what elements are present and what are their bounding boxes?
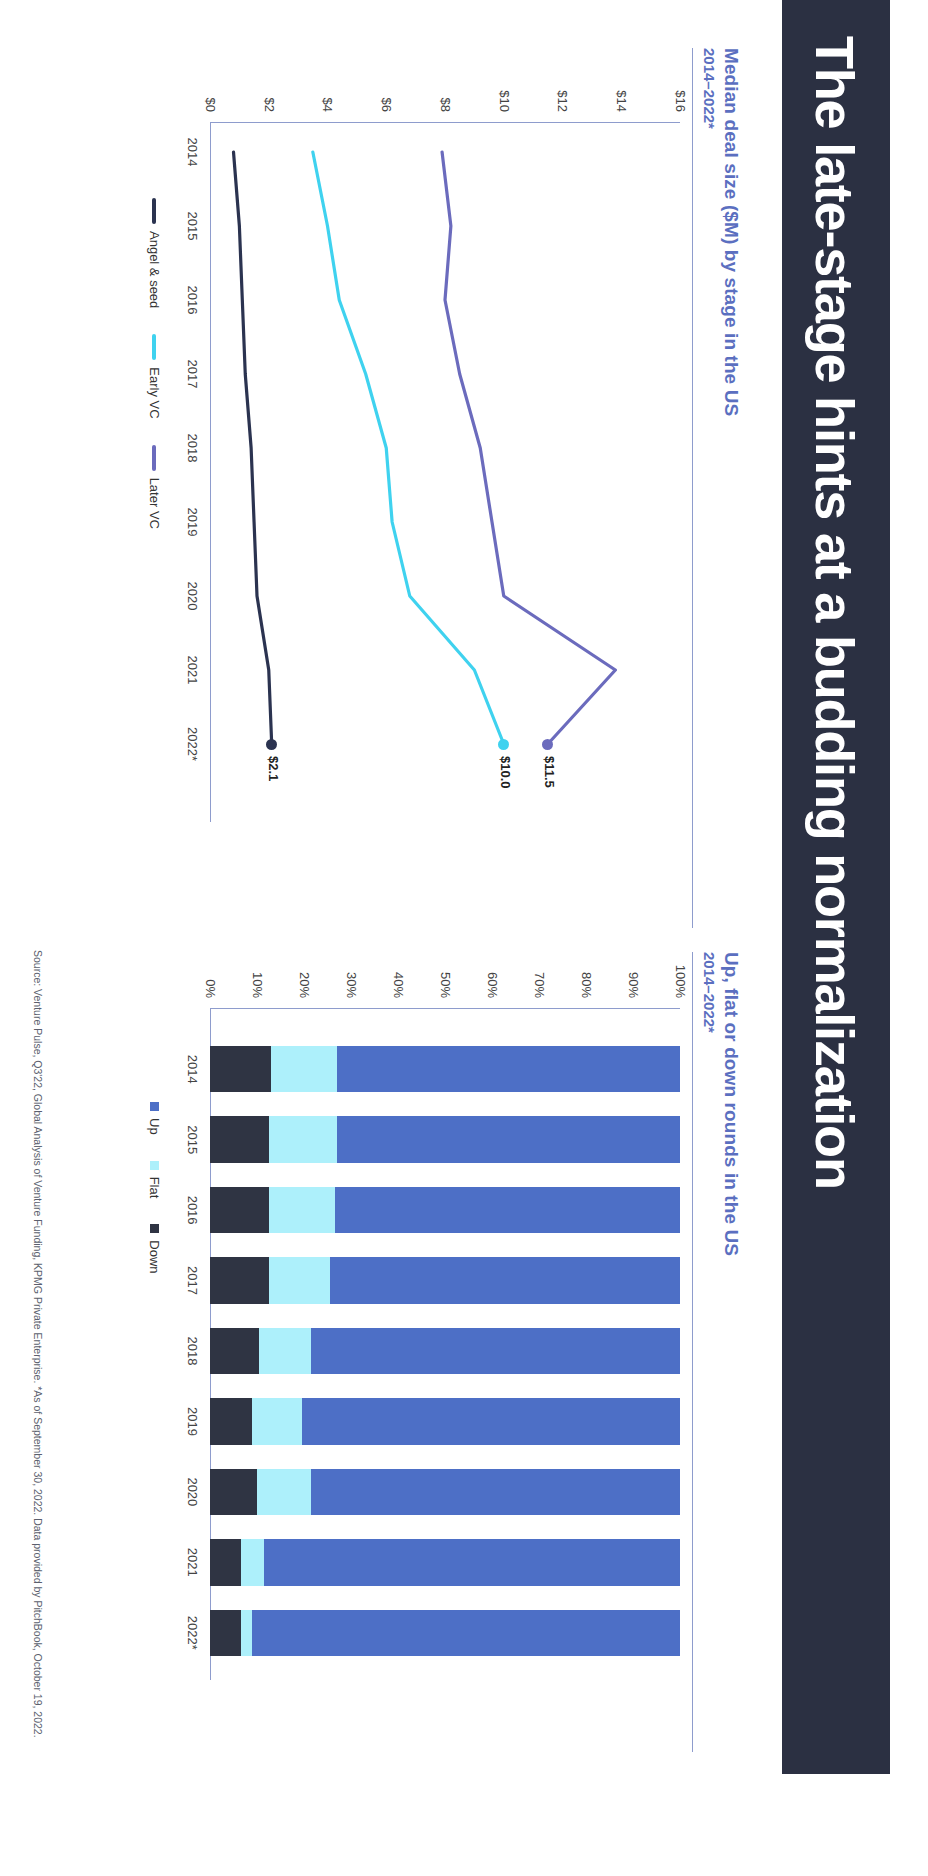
bar-column[interactable] — [210, 1257, 680, 1303]
line-chart-series — [210, 122, 680, 822]
bar-chart-y-tick: 90% — [626, 952, 641, 998]
bar-segment-flat — [269, 1257, 330, 1303]
page-title-text: The late-stage hints at a budding normal… — [805, 36, 865, 1189]
panel-up-flat-down-rounds: Up, flat or down rounds in the US 2014–2… — [82, 952, 742, 1752]
line-chart-y-tick: $16 — [673, 66, 688, 112]
line-end-dot — [542, 739, 553, 750]
bar-segment-down — [210, 1398, 252, 1444]
bar-segment-flat — [271, 1046, 337, 1092]
legend-label: Angel & seed — [147, 231, 162, 308]
line-end-label: $11.5 — [542, 756, 557, 788]
bar-chart-y-tick: 30% — [344, 952, 359, 998]
bar-segment-up — [311, 1328, 680, 1374]
bar-column[interactable] — [210, 1539, 680, 1585]
line-chart-x-tick: 2022* — [185, 727, 200, 761]
legend-item-flat[interactable]: Flat — [147, 1161, 162, 1199]
legend-swatch-icon — [153, 445, 157, 471]
line-chart-x-tick: 2015 — [185, 212, 200, 241]
legend-swatch-icon — [150, 1224, 159, 1233]
legend-item-down[interactable]: Down — [147, 1224, 162, 1273]
panel-median-deal-size: Median deal size ($M) by stage in the US… — [82, 48, 742, 928]
bar-column[interactable] — [210, 1046, 680, 1092]
bar-column[interactable] — [210, 1187, 680, 1233]
bar-segment-up — [337, 1116, 680, 1162]
legend-swatch-icon — [153, 198, 157, 224]
source-note: Source: Venture Pulse, Q3'22, Global Ana… — [32, 950, 44, 1850]
bar-column[interactable] — [210, 1116, 680, 1162]
legend-swatch-icon — [150, 1161, 159, 1170]
line-series-early-vc — [313, 152, 504, 744]
bar-segment-up — [302, 1398, 680, 1444]
line-chart-y-tick: $10 — [496, 66, 511, 112]
line-chart-legend: Angel & seedEarly VCLater VC — [147, 198, 162, 529]
bar-chart-x-tick: 2016 — [185, 1196, 200, 1225]
bar-segment-down — [210, 1610, 241, 1656]
bar-chart-x-tick: 2020 — [185, 1477, 200, 1506]
bar-segment-down — [210, 1469, 257, 1515]
bar-segment-down — [210, 1257, 269, 1303]
bar-column[interactable] — [210, 1469, 680, 1515]
legend-item-angel-seed[interactable]: Angel & seed — [147, 198, 162, 308]
line-chart-x-tick: 2019 — [185, 508, 200, 537]
line-chart-y-tick: $0 — [203, 66, 218, 112]
line-series-later-vc — [442, 152, 615, 744]
bar-segment-up — [252, 1610, 680, 1656]
bar-column[interactable] — [210, 1398, 680, 1444]
bar-segment-flat — [257, 1469, 311, 1515]
line-chart-x-tick: 2020 — [185, 582, 200, 611]
bar-chart-x-tick: 2015 — [185, 1125, 200, 1154]
line-chart-x-tick: 2018 — [185, 434, 200, 463]
line-chart-y-tick: $6 — [379, 66, 394, 112]
legend-label: Down — [147, 1240, 162, 1273]
line-chart-y-tick: $14 — [614, 66, 629, 112]
bar-segment-flat — [252, 1398, 301, 1444]
bar-chart-y-axis — [210, 1008, 680, 1009]
bar-column[interactable] — [210, 1610, 680, 1656]
right-panel-title: Up, flat or down rounds in the US — [720, 952, 742, 1752]
line-series-angel-seed — [234, 152, 272, 744]
line-chart-x-tick: 2017 — [185, 360, 200, 389]
bar-segment-up — [264, 1539, 680, 1585]
page-title: The late-stage hints at a budding normal… — [794, 36, 876, 1736]
line-end-label: $10.0 — [498, 756, 513, 789]
bar-segment-up — [335, 1187, 680, 1233]
bar-segment-up — [337, 1046, 680, 1092]
bar-segment-flat — [241, 1539, 265, 1585]
bar-chart-y-tick: 100% — [673, 952, 688, 998]
legend-swatch-icon — [153, 334, 157, 360]
bar-chart-y-tick: 60% — [485, 952, 500, 998]
legend-item-early-vc[interactable]: Early VC — [147, 334, 162, 418]
bar-segment-down — [210, 1328, 259, 1374]
slide-canvas: The late-stage hints at a budding normal… — [0, 0, 928, 1876]
legend-label: Up — [147, 1118, 162, 1135]
bar-column[interactable] — [210, 1328, 680, 1374]
legend-label: Later VC — [147, 478, 162, 529]
right-panel-subtitle: 2014–2022* — [701, 952, 718, 1752]
legend-label: Early VC — [147, 367, 162, 418]
bar-chart: 0%10%20%30%40%50%60%70%80%90%100% 201420… — [210, 1008, 680, 1680]
line-chart-x-tick: 2021 — [185, 656, 200, 685]
bar-segment-down — [210, 1187, 269, 1233]
bar-segment-down — [210, 1116, 269, 1162]
bar-chart-legend: UpFlatDown — [147, 1102, 162, 1274]
left-panel-subtitle: 2014–2022* — [701, 48, 718, 928]
line-chart-x-tick: 2014 — [185, 138, 200, 167]
bar-chart-x-tick: 2021 — [185, 1548, 200, 1577]
right-panel-divider — [692, 952, 693, 1752]
bar-chart-y-tick: 80% — [579, 952, 594, 998]
bar-segment-up — [311, 1469, 680, 1515]
bar-segment-flat — [241, 1610, 253, 1656]
bar-chart-x-tick: 2019 — [185, 1407, 200, 1436]
line-chart-x-tick: 2016 — [185, 286, 200, 315]
legend-swatch-icon — [150, 1102, 159, 1111]
line-end-label: $2.1 — [266, 756, 281, 781]
bar-segment-flat — [259, 1328, 311, 1374]
bar-chart-y-tick: 70% — [532, 952, 547, 998]
bar-chart-y-tick: 40% — [391, 952, 406, 998]
legend-item-up[interactable]: Up — [147, 1102, 162, 1135]
line-end-dot — [498, 739, 509, 750]
bar-chart-y-tick: 20% — [297, 952, 312, 998]
legend-item-later-vc[interactable]: Later VC — [147, 445, 162, 529]
bar-segment-down — [210, 1539, 241, 1585]
bar-chart-y-tick: 0% — [203, 952, 218, 998]
